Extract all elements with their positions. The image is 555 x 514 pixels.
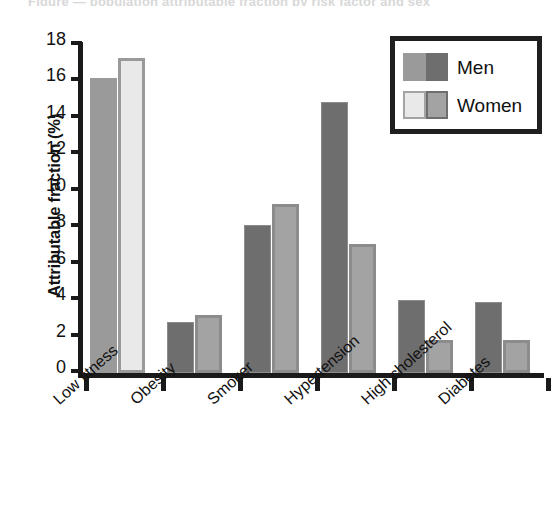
- y-tick-6: 6: [71, 260, 82, 264]
- y-tick-16: 16: [71, 77, 82, 81]
- chart-legend: Men Women: [390, 36, 542, 134]
- y-tick-4: 4: [71, 296, 82, 300]
- x-tick-end: [546, 378, 551, 391]
- y-tick-12: 12: [71, 150, 82, 154]
- legend-swatch-men: [403, 53, 448, 81]
- bar-group: [321, 45, 376, 373]
- legend-label-women: Women: [457, 96, 522, 115]
- y-tick-label-10: 10: [46, 176, 66, 194]
- y-tick-2: 2: [71, 333, 82, 337]
- y-tick-label-14: 14: [46, 103, 66, 121]
- legend-swatch-women: [403, 91, 448, 119]
- bar-men: [244, 225, 271, 373]
- clipped-caption-text: Figure — population attributable fractio…: [28, 0, 528, 6]
- y-tick-18: 18: [71, 41, 82, 45]
- bar-women: [272, 204, 299, 373]
- bar-group: [244, 45, 299, 373]
- y-tick-label-16: 16: [46, 66, 66, 84]
- legend-label-men: Men: [457, 58, 494, 77]
- y-axis-label: Attributable fraction (%): [45, 56, 64, 356]
- bar-women: [118, 58, 145, 373]
- y-tick-label-18: 18: [46, 30, 66, 48]
- y-tick-label-8: 8: [56, 212, 66, 230]
- y-tick-label-12: 12: [46, 139, 66, 157]
- y-tick-14: 14: [71, 114, 82, 118]
- bar-men: [321, 102, 348, 374]
- chart-figure: Figure — population attributable fractio…: [0, 0, 555, 514]
- y-tick-label-4: 4: [56, 285, 66, 303]
- legend-entry-women: Women: [403, 86, 529, 124]
- y-tick-10: 10: [71, 187, 82, 191]
- y-tick-label-2: 2: [56, 322, 66, 340]
- bar-men: [90, 78, 117, 373]
- bar-group: [90, 45, 145, 373]
- y-tick-label-6: 6: [56, 249, 66, 267]
- y-tick-label-0: 0: [56, 358, 66, 376]
- bar-women: [195, 315, 222, 373]
- bar-group: [167, 45, 222, 373]
- y-tick-8: 8: [71, 223, 82, 227]
- bar-women: [503, 340, 530, 373]
- legend-entry-men: Men: [403, 48, 529, 86]
